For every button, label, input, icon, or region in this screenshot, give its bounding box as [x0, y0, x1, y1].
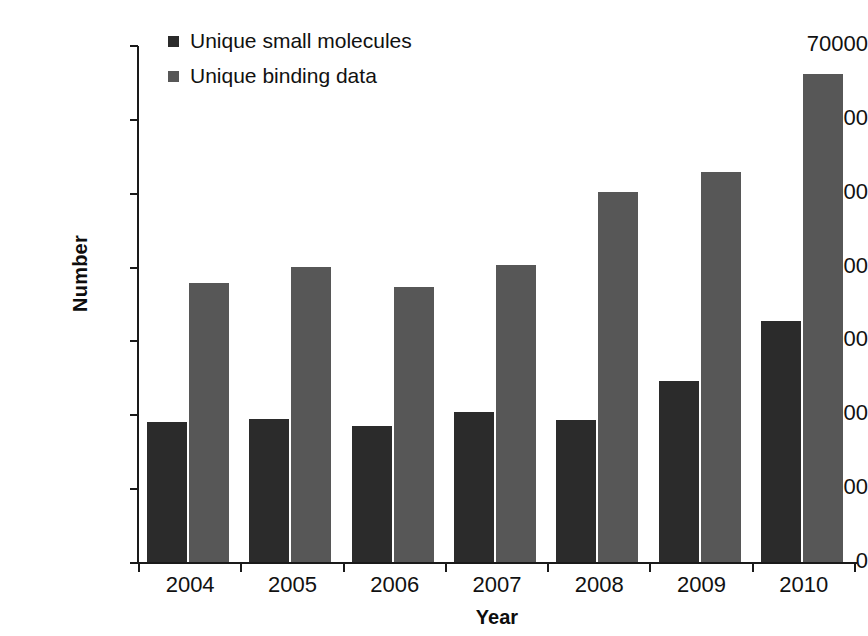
y-axis-tick — [130, 45, 138, 47]
bar-2008-series-0 — [556, 420, 596, 563]
legend-swatch-icon — [168, 36, 179, 47]
x-axis-tick — [649, 563, 651, 572]
x-axis-tick — [752, 563, 754, 572]
bar-2009-series-0 — [659, 381, 699, 563]
y-axis-tick — [130, 267, 138, 269]
bar-2006-series-0 — [352, 426, 392, 563]
y-axis-tick — [130, 119, 138, 121]
x-axis-title: Year — [137, 606, 857, 629]
bar-2006-series-1 — [394, 287, 434, 563]
x-axis-tick — [343, 563, 345, 572]
y-axis-tick — [130, 414, 138, 416]
x-axis-tick — [445, 563, 447, 572]
x-axis-label: 2010 — [744, 572, 864, 598]
bar-2005-series-1 — [291, 267, 331, 563]
x-axis-tick — [240, 563, 242, 572]
plot-area — [139, 46, 855, 563]
bar-chart: Number 010000200003000040000500006000070… — [0, 0, 868, 636]
x-axis-tick — [138, 563, 140, 572]
bar-2009-series-1 — [701, 172, 741, 563]
y-axis-title: Number — [69, 204, 92, 344]
bar-2004-series-1 — [189, 283, 229, 563]
x-axis-line — [137, 562, 857, 564]
y-axis-tick — [130, 193, 138, 195]
bar-2010-series-1 — [803, 74, 843, 563]
y-axis-tick — [130, 488, 138, 490]
y-axis-tick — [130, 340, 138, 342]
x-axis-tick — [854, 563, 856, 572]
bar-2007-series-0 — [454, 412, 494, 563]
bar-2007-series-1 — [496, 265, 536, 563]
bar-2010-series-0 — [761, 321, 801, 563]
x-axis-tick — [547, 563, 549, 572]
bar-2005-series-0 — [249, 419, 289, 563]
bar-2008-series-1 — [598, 192, 638, 563]
bar-2004-series-0 — [147, 422, 187, 563]
